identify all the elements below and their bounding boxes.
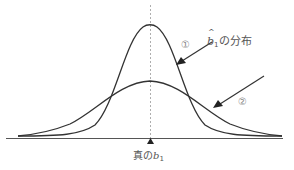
curve-2-label: ② bbox=[238, 96, 247, 107]
distribution-label: b1の分布 bbox=[207, 32, 252, 49]
curve-1-label: ① bbox=[181, 39, 190, 50]
distribution-label-suffix: の分布 bbox=[219, 35, 252, 48]
true-value-prefix: 真の bbox=[133, 150, 153, 161]
arrow-2-head bbox=[213, 100, 223, 108]
b-hat-symbol: b bbox=[207, 35, 214, 48]
arrow-1-head bbox=[176, 57, 186, 65]
distribution-diagram bbox=[0, 0, 294, 170]
true-value-subscript: 1 bbox=[159, 155, 163, 163]
true-value-label: 真のb1 bbox=[133, 147, 164, 163]
